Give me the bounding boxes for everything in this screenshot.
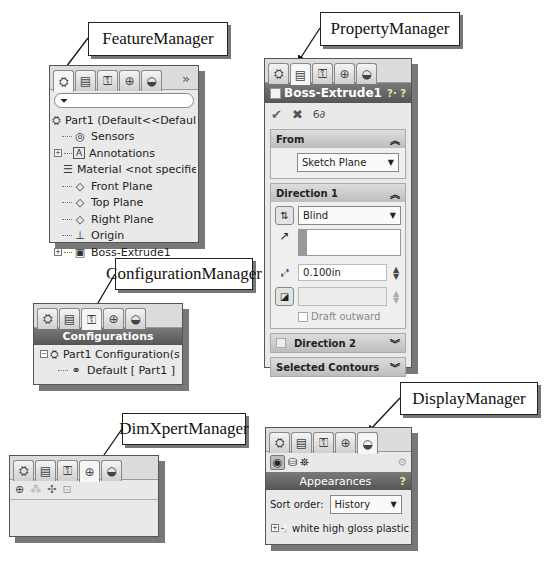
- draft-outward-checkbox[interactable]: [298, 312, 308, 322]
- configuration-manager-tab[interactable]: ⚿: [313, 432, 334, 453]
- from-dropdown[interactable]: Sketch Plane▼: [297, 153, 399, 172]
- tree-item-right-plane[interactable]: ◇Right Plane: [52, 211, 196, 228]
- collapse-icon[interactable]: ︽: [390, 186, 400, 201]
- direction1-header[interactable]: Direction 1︽: [271, 184, 405, 202]
- from-section: From︽ Sketch Plane▼: [270, 129, 406, 179]
- display-manager-tab[interactable]: ◒: [101, 460, 122, 481]
- help-icon[interactable]: ?: [400, 475, 406, 488]
- configuration-manager-tab[interactable]: ⚿: [97, 70, 118, 91]
- tree-item-front-plane[interactable]: ◇Front Plane: [52, 178, 196, 195]
- collapse-icon[interactable]: ︽: [390, 132, 400, 147]
- display-manager-tab[interactable]: ◒: [356, 63, 377, 84]
- draft-angle-input[interactable]: [298, 287, 387, 306]
- display-manager-tab[interactable]: ◒: [125, 308, 146, 329]
- decals-view-button[interactable]: ⛁: [288, 456, 297, 469]
- configuration-manager-tab[interactable]: ⚿: [81, 308, 102, 330]
- feature-manager-tab[interactable]: ⛭: [268, 63, 289, 84]
- tree-connector: [62, 136, 72, 137]
- dimxpert-manager-tab[interactable]: ⊕: [335, 432, 356, 453]
- reverse-direction-button[interactable]: ⇅: [275, 206, 294, 225]
- tree-item-label: Default [ Part1 ]: [87, 364, 175, 377]
- display-manager-tab[interactable]: ◒: [357, 432, 378, 454]
- dimxpert-manager-tab[interactable]: ⊕: [103, 308, 124, 329]
- tree-item-configurations[interactable]: −⛭Part1 Configuration(s): [36, 346, 180, 363]
- panel-title: Appearances: [271, 475, 400, 488]
- appearance-item[interactable]: +white high gloss plastic: [268, 520, 409, 537]
- appearances-view-button[interactable]: ◉: [270, 455, 285, 470]
- selected-contours-header[interactable]: Selected Contours︾: [271, 358, 405, 376]
- tree-item-top-plane[interactable]: ◇Top Plane: [52, 195, 196, 212]
- feature-manager-tab-icon: ⛭: [275, 436, 285, 450]
- dimxpert-manager-tab[interactable]: ⊕: [119, 70, 140, 91]
- property-manager-tab-icon: ▤: [295, 68, 306, 82]
- display-options-icon[interactable]: ⚙: [397, 456, 407, 469]
- sort-order-dropdown[interactable]: History▼: [330, 495, 402, 514]
- draft-button[interactable]: ◪: [275, 287, 294, 306]
- dimxpert-manager-tab[interactable]: ⊕: [334, 63, 355, 84]
- configuration-manager-tab[interactable]: ⚿: [312, 63, 333, 84]
- expand-icon[interactable]: +: [54, 149, 62, 157]
- tolstack-icon[interactable]: ⊡: [62, 483, 71, 496]
- tree-item-sensors[interactable]: ◎Sensors: [52, 129, 196, 146]
- feature-manager-tab[interactable]: ⛭: [13, 460, 34, 481]
- property-manager-tab-icon: ▤: [296, 436, 307, 450]
- display-toolbar: ◉ ⛁ ⛯ ⚙: [266, 452, 411, 472]
- scenes-view-button[interactable]: ⛯: [300, 456, 309, 469]
- property-manager-tab[interactable]: ▤: [290, 63, 311, 85]
- display-manager-tab[interactable]: ◒: [141, 70, 162, 91]
- property-manager-tab[interactable]: ▤: [35, 460, 56, 481]
- dimxpert-toolbar: ⊕ ⁂ ✣ ⊡: [10, 480, 158, 500]
- tree-item-label: Annotations: [89, 147, 155, 160]
- expand-icon[interactable]: +: [54, 248, 62, 256]
- selection-color-bar: [299, 230, 307, 255]
- dimxpert-manager-tab-icon: ⊕: [339, 67, 349, 81]
- configuration-manager-tab[interactable]: ⚿: [57, 460, 78, 481]
- callout-configuration-manager: ConfigurationManager: [115, 258, 253, 290]
- help-icon[interactable]: ?· ?: [387, 88, 406, 99]
- tree-item-origin[interactable]: ⊥Origin: [52, 228, 196, 245]
- expand-icon[interactable]: ︾: [390, 360, 400, 375]
- copy-scheme-icon[interactable]: ✣: [47, 483, 56, 496]
- dimxpert-manager-tab-icon: ⊕: [84, 465, 94, 479]
- tree-item-label: Material <not specified>: [77, 163, 196, 176]
- preview-button[interactable]: 6∂: [313, 108, 326, 121]
- collapse-icon[interactable]: −: [40, 350, 48, 358]
- feature-manager-tab[interactable]: ⛭: [37, 308, 58, 329]
- tree-connector: [62, 202, 72, 203]
- direction2-header[interactable]: Direction 2︾: [271, 334, 405, 352]
- auto-dimension-scheme-icon[interactable]: ⊕: [15, 483, 24, 496]
- property-manager-tab[interactable]: ▤: [291, 432, 312, 453]
- property-manager-tab[interactable]: ▤: [59, 308, 80, 329]
- tree-item-boss-extrude1[interactable]: +▣Boss-Extrude1: [52, 244, 196, 261]
- show-tolerance-status-icon[interactable]: ⁂: [30, 483, 41, 496]
- action-buttons: ✔ ✖ 6∂: [265, 103, 411, 125]
- feature-manager-tab[interactable]: ⛭: [53, 70, 74, 92]
- feature-manager-tab[interactable]: ⛭: [269, 432, 290, 453]
- expand-icon[interactable]: ︾: [390, 336, 400, 351]
- direction2-checkbox[interactable]: [276, 338, 286, 348]
- ok-button[interactable]: ✔: [271, 107, 282, 122]
- configuration-manager-tab-icon: ⚿: [319, 436, 328, 450]
- depth-spinner[interactable]: ▲▼: [391, 266, 401, 280]
- tree-item-annotations[interactable]: +AAnnotations: [52, 145, 196, 162]
- end-condition-dropdown[interactable]: Blind▼: [298, 206, 401, 225]
- dropdown-value: Sketch Plane: [302, 157, 366, 168]
- annotations-icon: A: [73, 147, 85, 159]
- property-manager-tab[interactable]: ▤: [75, 70, 96, 91]
- dropdown-value: History: [335, 499, 371, 510]
- draft-spinner[interactable]: ▲▼: [391, 290, 401, 304]
- direction-selection-box[interactable]: [298, 229, 401, 256]
- dimxpert-manager-tab[interactable]: ⊕: [79, 460, 100, 482]
- tree-item-part1[interactable]: ⛭Part1 (Default<<Default>_Disp: [52, 112, 196, 129]
- plane-icon: ◇: [73, 213, 87, 226]
- expand-icon[interactable]: +: [271, 524, 279, 532]
- tree-item-material[interactable]: ☰Material <not specified>: [52, 162, 196, 179]
- cancel-button[interactable]: ✖: [292, 107, 303, 122]
- more-tabs-icon[interactable]: »: [182, 71, 190, 86]
- draft-icon: ◪: [280, 291, 289, 302]
- selected-contours-section: Selected Contours︾: [270, 357, 406, 377]
- from-header[interactable]: From︽: [271, 130, 405, 148]
- filter-input[interactable]: ⏷: [54, 93, 194, 108]
- tree-item-default-config[interactable]: ⚭Default [ Part1 ]: [36, 363, 180, 380]
- depth-input[interactable]: 0.100in: [298, 264, 387, 281]
